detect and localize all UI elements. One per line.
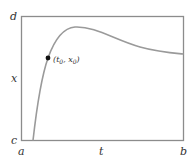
initial-point-label: (t0, x0) — [53, 55, 80, 65]
x-min-label: a — [18, 145, 25, 158]
x-axis-label: t — [99, 145, 104, 158]
y-axis-label: x — [11, 72, 18, 85]
initial-point-marker — [46, 56, 51, 61]
x-max-label: b — [180, 145, 187, 158]
plot-frame — [22, 17, 184, 141]
y-max-label: d — [10, 10, 17, 23]
solution-curve — [33, 27, 184, 141]
diagram: (t0, x0) d x c a t b — [0, 0, 195, 161]
y-min-label: c — [11, 134, 17, 147]
